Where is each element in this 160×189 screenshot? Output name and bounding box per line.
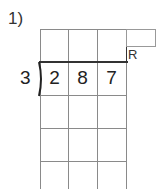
remainder-label: R — [128, 48, 137, 61]
quotient-cell-2[interactable] — [69, 30, 97, 61]
problem-number: 1) — [8, 10, 23, 28]
dividend-digit-1: 2 — [40, 68, 69, 88]
remainder-box[interactable] — [126, 29, 156, 47]
grid-line-h3 — [40, 128, 127, 129]
divisor: 3 — [20, 68, 31, 88]
dividend-digit-3: 7 — [97, 68, 126, 88]
quotient-cell-3[interactable] — [98, 30, 126, 61]
division-line — [39, 61, 128, 63]
remainder-tick — [126, 47, 127, 62]
dividend-digit-2: 8 — [68, 68, 97, 88]
grid-line-h4 — [40, 161, 127, 162]
grid-line-h2 — [40, 95, 127, 96]
quotient-cell-1[interactable] — [41, 30, 68, 61]
